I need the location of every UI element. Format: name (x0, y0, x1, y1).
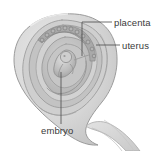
label-placenta: placenta (114, 18, 151, 28)
figure-root: placenta uterus embryo (0, 0, 161, 151)
label-embryo: embryo (41, 126, 73, 136)
label-uterus: uterus (122, 41, 149, 51)
cervix-tail (86, 120, 140, 151)
